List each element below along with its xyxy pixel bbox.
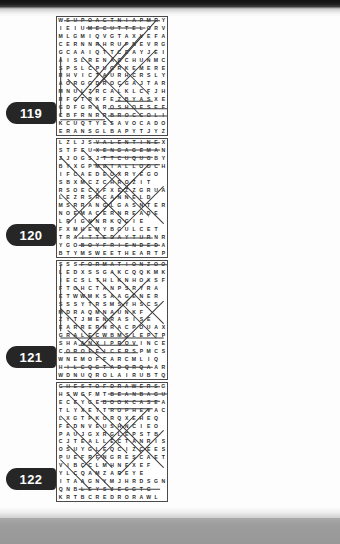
grid-cell: L: [152, 111, 159, 119]
grid-cell: T: [108, 155, 115, 163]
grid-cell: M: [94, 226, 101, 234]
grid-cell: R: [79, 194, 86, 202]
grid-cell: A: [72, 233, 79, 241]
grid-cell: D: [108, 383, 115, 391]
grid-cell: G: [123, 80, 130, 88]
grid-cell: R: [101, 104, 108, 112]
grid-cell: M: [94, 470, 101, 478]
grid-cell: F: [79, 454, 86, 462]
grid-cell: C: [108, 348, 115, 356]
grid-cell: Q: [79, 119, 86, 127]
grid-cell: C: [101, 17, 108, 25]
grid-cell: E: [64, 25, 71, 33]
grid-cell: G: [79, 104, 86, 112]
grid-cell: G: [108, 64, 115, 72]
grid-cell: G: [116, 202, 123, 210]
grid-cell: P: [145, 332, 152, 340]
grid-cell: H: [130, 300, 137, 308]
grid-cell: R: [94, 41, 101, 49]
grid-cell: H: [123, 477, 130, 485]
grid-cell: K: [123, 64, 130, 72]
grid-cell: T: [116, 25, 123, 33]
grid-cell: D: [72, 422, 79, 430]
grid-cell: M: [86, 292, 93, 300]
grid-cell: Y: [94, 485, 101, 493]
grid-cell: O: [138, 277, 145, 285]
grid-cell: V: [123, 119, 130, 127]
grid-cell: N: [145, 340, 152, 348]
grid-cell: I: [152, 438, 159, 446]
grid-cell: O: [123, 340, 130, 348]
grid-cell: A: [152, 324, 159, 332]
grid-cell: S: [64, 202, 71, 210]
grid-cell: C: [79, 363, 86, 371]
grid-cell: N: [116, 194, 123, 202]
grid-cell: M: [94, 391, 101, 399]
grid-cell: D: [94, 170, 101, 178]
grid-cell: C: [57, 348, 64, 356]
grid-cell: P: [86, 414, 93, 422]
grid-cell: R: [108, 324, 115, 332]
grid-cell: G: [94, 363, 101, 371]
grid-cell: C: [138, 454, 145, 462]
grid-cell: [152, 485, 159, 493]
grid-cell: B: [108, 111, 115, 119]
grid-cell: S: [57, 261, 64, 269]
grid-cell: L: [94, 446, 101, 454]
grid-cell: T: [138, 127, 145, 135]
grid-cell: C: [123, 56, 130, 64]
grid-cell: G: [79, 391, 86, 399]
grid-cell: C: [130, 111, 137, 119]
grid-cell: T: [101, 391, 108, 399]
grid-cell: [160, 470, 167, 478]
grid-cell: C: [116, 80, 123, 88]
grid-cell: A: [86, 210, 93, 218]
grid-cell: E: [130, 194, 137, 202]
grid-cell: E: [152, 139, 159, 147]
grid-cell: F: [72, 111, 79, 119]
grid-cell: D: [152, 241, 159, 249]
grid-cell: [160, 414, 167, 422]
grid-cell: F: [72, 147, 79, 155]
puzzle-124: 124MEMRNUNKREPKHPLMASRLATRHEQQALITNKWWRC…: [170, 138, 340, 260]
grid-cell: [152, 218, 159, 226]
grid-cell: F: [101, 96, 108, 104]
grid-cell: Y: [101, 226, 108, 234]
grid-cell: T: [57, 407, 64, 415]
grid-cell: M: [152, 56, 159, 64]
grid-cell: C: [72, 470, 79, 478]
grid-cell: R: [86, 96, 93, 104]
grid-cell: I: [101, 340, 108, 348]
grid-cell: L: [57, 414, 64, 422]
grid-cell: N: [160, 147, 167, 155]
grid-cell: R: [130, 477, 137, 485]
grid-cell: [152, 462, 159, 470]
grid-cell: R: [72, 80, 79, 88]
grid-cell: K: [160, 269, 167, 277]
grid-cell: A: [116, 316, 123, 324]
grid-cell: L: [57, 218, 64, 226]
scan-bottom-band: [0, 518, 340, 544]
grid-cell: G: [86, 430, 93, 438]
grid-cell: S: [101, 485, 108, 493]
grid-cell: K: [57, 119, 64, 127]
grid-cell: N: [138, 438, 145, 446]
grid-cell: Y: [123, 233, 130, 241]
grid-cell: A: [108, 88, 115, 96]
grid-cell: K: [108, 218, 115, 226]
grid-cell: E: [101, 119, 108, 127]
grid-cell: E: [138, 383, 145, 391]
grid-cell: I: [138, 139, 145, 147]
grid-cell: L: [138, 355, 145, 363]
grid-cell: G: [57, 332, 64, 340]
grid-cell: X: [94, 147, 101, 155]
grid-cell: D: [108, 233, 115, 241]
grid-cell: B: [64, 111, 71, 119]
grid-cell: [160, 170, 167, 178]
grid-cell: E: [86, 332, 93, 340]
grid-cell: Z: [101, 470, 108, 478]
grid-cell: R: [116, 178, 123, 186]
grid-cell: U: [160, 391, 167, 399]
grid-cell: Y: [160, 17, 167, 25]
grid-cell: H: [101, 41, 108, 49]
